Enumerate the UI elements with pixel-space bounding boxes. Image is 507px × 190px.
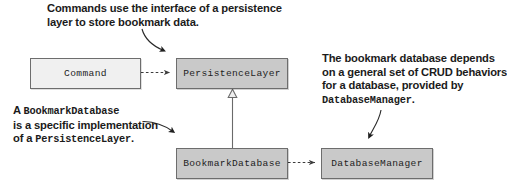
note-right-line1: The bookmark database depends (322, 52, 495, 64)
note-left-line3-suffix: . (131, 132, 134, 144)
note-right-line2: on a general set of CRUD behaviors (322, 66, 507, 78)
note-left-line1-mono: BookmarkDatabase (23, 105, 119, 117)
note-left-line1-prefix: A (13, 104, 23, 116)
note-right-line3: for a database, provided by (322, 79, 463, 91)
callout-arrow-right (370, 110, 381, 136)
class-label-persistence-layer: PersistenceLayer (183, 68, 281, 79)
callout-arrow-top (142, 29, 163, 50)
note-top-line2: layer to store bookmark data. (47, 16, 199, 28)
hollow-triangle-arrowhead (228, 89, 237, 97)
note-left-line3-prefix: of a (13, 132, 35, 144)
note-right-line4-mono: DatabaseManager (322, 94, 412, 106)
class-label-database-manager: DatabaseManager (331, 158, 423, 169)
note-left-line3-mono: PersistenceLayer (35, 133, 131, 145)
class-label-bookmark-database: BookmarkDatabase (183, 158, 281, 169)
note-right: The bookmark database depends on a gener… (322, 52, 507, 107)
class-box-persistence-layer[interactable]: PersistenceLayer (176, 58, 288, 89)
realization-bookmarkdatabase-to-persistencelayer (228, 89, 237, 148)
note-left-line2: is a specific implementation (13, 119, 158, 131)
class-box-database-manager[interactable]: DatabaseManager (321, 148, 433, 179)
note-top: Commands use the interface of a persiste… (47, 2, 282, 29)
note-right-line4-suffix: . (412, 93, 415, 105)
class-label-command: Command (64, 68, 107, 79)
note-left: A BookmarkDatabase is a specific impleme… (13, 104, 158, 147)
class-box-bookmark-database[interactable]: BookmarkDatabase (176, 148, 288, 179)
class-box-command[interactable]: Command (30, 58, 141, 89)
note-top-line1: Commands use the interface of a persiste… (47, 2, 282, 14)
